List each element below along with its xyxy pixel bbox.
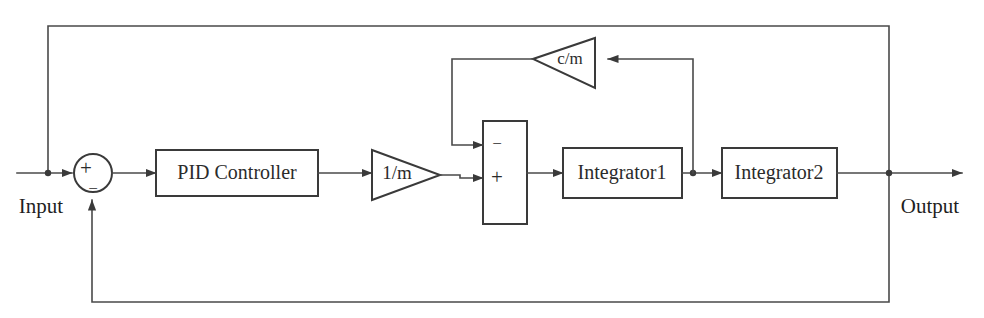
signal-gain-to-sum-plus xyxy=(440,175,483,178)
block-integrator-2[interactable]: Integrator2 xyxy=(722,148,837,198)
pid-controller-label: PID Controller xyxy=(177,161,297,183)
sum-input-junction: + − xyxy=(74,154,112,198)
sum-plant-junction: − + xyxy=(483,121,527,224)
gain-inv-m-label: 1/m xyxy=(382,162,412,183)
block-integrator-1[interactable]: Integrator1 xyxy=(563,148,682,198)
block-gain-inv-m[interactable]: 1/m xyxy=(372,150,440,200)
block-pid-controller[interactable]: PID Controller xyxy=(156,150,318,196)
block-diagram-canvas: + − PID Controller 1/m − + xyxy=(0,0,984,318)
sum-input-plus-sign: + xyxy=(80,156,92,180)
integrator-1-label: Integrator1 xyxy=(578,161,667,184)
sum-plant-minus-sign: − xyxy=(492,134,502,153)
integrator-2-label: Integrator2 xyxy=(735,161,824,184)
input-port-label: Input xyxy=(19,194,63,218)
block-gain-c-over-m[interactable]: c/m xyxy=(533,38,595,88)
junction-output-tap xyxy=(886,170,892,176)
gain-c-over-m-label: c/m xyxy=(557,49,583,68)
sum-input-minus-sign: − xyxy=(88,179,98,198)
junction-input-line xyxy=(45,170,51,176)
output-port-label: Output xyxy=(901,194,960,218)
block-diagram-svg: + − PID Controller 1/m − + xyxy=(0,0,984,318)
sum-plant-plus-sign: + xyxy=(491,165,503,189)
